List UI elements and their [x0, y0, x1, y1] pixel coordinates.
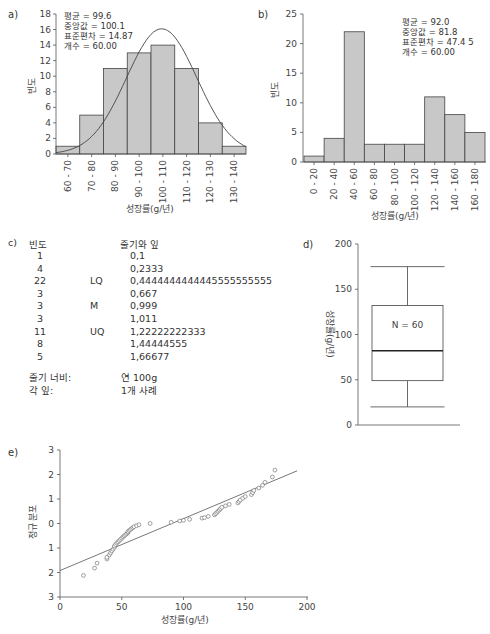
y-axis-label-a: 빈도 — [27, 78, 37, 94]
y-axis-label-d: 성장률(g/년) — [325, 310, 335, 358]
data-point — [188, 517, 192, 521]
y-tick-label: 50 — [341, 375, 353, 385]
x-tick-label: 200 — [298, 602, 315, 612]
stat-text: 평균 = 99.6 — [64, 11, 111, 21]
x-tick-label: 100 - 120 — [410, 168, 420, 212]
quartile-marker: UQ — [90, 326, 104, 337]
x-tick-label: 0 - 20 — [309, 168, 319, 194]
y-tick-label: 5 — [291, 127, 297, 137]
panel-label-e: e) — [8, 447, 18, 458]
x-tick-label: 60 - 70 — [63, 160, 73, 192]
freq-header: 빈도 — [29, 237, 47, 251]
bar — [104, 68, 128, 154]
y-tick-label: 0 — [48, 519, 54, 529]
freq-value: 5 — [29, 351, 51, 362]
y-tick-label: 3 — [48, 445, 54, 455]
data-point — [243, 495, 247, 499]
data-point — [227, 502, 231, 506]
quartile-marker: M — [90, 300, 98, 311]
y-axis-label-b: 빈도 — [270, 82, 280, 98]
stat-text: 표준편차 = 47.4 5 — [402, 37, 474, 47]
y-tick-label: 100 — [335, 330, 352, 340]
x-axis-label-a: 성장률(g/년) — [126, 204, 174, 214]
data-point — [178, 519, 182, 523]
y-tick-label: 1 — [48, 494, 54, 504]
bar — [151, 45, 175, 154]
panel-label-c: c) — [8, 237, 17, 248]
bar — [364, 144, 384, 162]
stem-leaf-value: 1,011 — [130, 313, 157, 324]
bar — [384, 144, 404, 162]
stat-text: 평균 = 92.0 — [402, 17, 449, 27]
x-tick-label: 50 — [116, 602, 128, 612]
x-tick-label: 150 — [237, 602, 254, 612]
data-point — [257, 486, 261, 490]
stem-leaf-value: 0,2333 — [130, 263, 163, 274]
stem-leaf-value: 0,4444444444445555555555 — [130, 275, 272, 286]
x-tick-label: 90 - 100 — [134, 160, 144, 198]
x-tick-label: 100 — [175, 602, 192, 612]
panel-label-d: d) — [303, 239, 313, 250]
y-axis-label-e: 정규 분포 — [28, 505, 38, 540]
x-tick-label: 40 - 60 — [349, 168, 359, 200]
data-point — [182, 518, 186, 522]
stat-text: 중앙값 = 81.8 — [402, 27, 457, 37]
y-tick-label: 10 — [40, 71, 52, 81]
figure: a) 024681012141618 60 - 7070 - 8080 - 90… — [0, 0, 490, 634]
x-tick-label: 160 - 180 — [470, 168, 480, 212]
y-tick-label: 0 — [346, 420, 352, 430]
freq-value: 3 — [29, 313, 51, 324]
bar — [222, 146, 246, 154]
y-tick-label: 3 — [48, 592, 54, 602]
bar — [425, 97, 445, 162]
stem-leaf-value: 0,667 — [130, 288, 157, 299]
histogram-b: b) 0510152025 0 - 2020 - 4040 - 6060 - 8… — [258, 9, 486, 221]
y-tick-label: 16 — [40, 25, 52, 35]
quartile-marker: LQ — [90, 275, 103, 286]
bar — [304, 156, 324, 162]
freq-value: 4 — [29, 263, 51, 274]
y-tick-label: 14 — [40, 40, 52, 50]
y-tick-label: 8 — [45, 87, 51, 97]
data-point — [273, 468, 277, 472]
data-point — [263, 480, 267, 484]
y-tick-label: 2 — [48, 470, 54, 480]
y-tick-label: 12 — [40, 56, 51, 66]
stemleaf-header: 줄기와 잎 — [120, 237, 159, 251]
bar — [80, 115, 104, 154]
panel-label-b: b) — [258, 9, 268, 20]
stat-text: 표준편차 = 14.87 — [64, 31, 133, 41]
x-tick-label: 100 - 110 — [158, 160, 168, 204]
data-point — [224, 504, 228, 508]
bar — [324, 138, 344, 162]
freq-value: 3 — [29, 300, 51, 311]
data-point — [206, 514, 210, 518]
bar — [445, 115, 465, 162]
y-tick-label: 0 — [45, 149, 51, 159]
data-point — [220, 505, 224, 509]
data-point — [82, 574, 86, 578]
data-point — [252, 489, 256, 493]
x-tick-label: 80 - 90 — [110, 160, 120, 192]
x-tick-label: 20 - 40 — [329, 168, 339, 200]
y-tick-label: 10 — [286, 98, 298, 108]
x-axis-label-b: 성장률(g/년) — [371, 211, 419, 221]
stem-leaf-value: 0,1 — [130, 250, 145, 261]
x-tick-label: 110 - 120 — [182, 160, 192, 204]
stat-text: 개수 = 60.00 — [402, 47, 455, 57]
y-tick-label: 4 — [45, 118, 51, 128]
data-point — [137, 523, 141, 527]
stem-leaf-value: 1,22222222333 — [130, 326, 206, 337]
freq-value: 22 — [29, 275, 51, 286]
y-tick-label: 6 — [45, 102, 51, 112]
bar — [344, 32, 364, 162]
y-tick-label: 200 — [335, 239, 352, 249]
data-point — [93, 566, 97, 570]
n-annotation: N = 60 — [392, 320, 424, 330]
footer-value: 1개 사례 — [121, 383, 157, 397]
bar — [175, 68, 199, 154]
y-tick-label: 0 — [291, 157, 297, 167]
stat-text: 중앙값 = 100.1 — [64, 21, 125, 31]
stem-leaf-value: 1,66677 — [130, 351, 169, 362]
footer-label: 줄기 너비: — [29, 370, 71, 384]
